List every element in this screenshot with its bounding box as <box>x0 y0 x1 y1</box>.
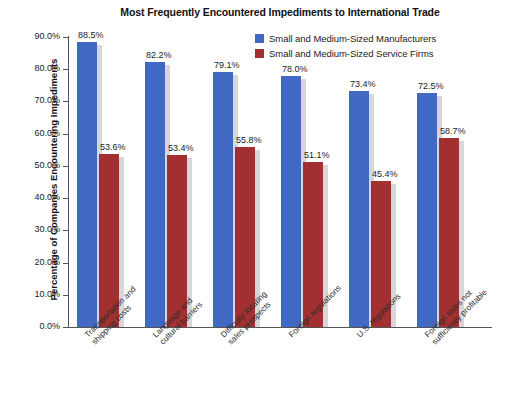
y-tick-mark <box>63 327 69 328</box>
bar-value-label: 78.0% <box>282 64 308 74</box>
bar-value-label: 55.8% <box>236 135 262 145</box>
bar-manufacturers <box>145 62 165 327</box>
bar-chart: Most Frequently Encountered Impediments … <box>0 0 507 413</box>
bar-manufacturers <box>77 42 97 327</box>
bar-manufacturers <box>417 93 437 327</box>
plot-area: 88.5%53.6%82.2%53.4%79.1%55.8%78.0%51.1%… <box>69 37 492 327</box>
bar-manufacturers <box>281 76 301 327</box>
y-tick-label: 60.0% <box>22 128 60 138</box>
bar-value-label: 53.4% <box>168 143 194 153</box>
y-tick-label: 70.0% <box>22 95 60 105</box>
bar-value-label: 73.4% <box>350 79 376 89</box>
y-tick-label: 10.0% <box>22 289 60 299</box>
y-tick-label: 0.0% <box>22 321 60 331</box>
bar-value-label: 82.2% <box>146 50 172 60</box>
bar-value-label: 53.6% <box>100 142 126 152</box>
y-tick-label: 20.0% <box>22 257 60 267</box>
bar-value-label: 88.5% <box>78 30 104 40</box>
y-tick-label: 40.0% <box>22 192 60 202</box>
y-axis-title: Percentage of Companies Encountering Imp… <box>48 40 59 320</box>
bar-manufacturers <box>213 72 233 327</box>
bar-value-label: 79.1% <box>214 60 240 70</box>
bar-value-label: 51.1% <box>304 150 330 160</box>
bar-value-label: 72.5% <box>418 81 444 91</box>
bar-value-label: 45.4% <box>372 169 398 179</box>
y-tick-label: 30.0% <box>22 224 60 234</box>
y-tick-label: 80.0% <box>22 63 60 73</box>
bar-value-label: 58.7% <box>440 126 466 136</box>
bar-manufacturers <box>349 91 369 328</box>
y-tick-label: 90.0% <box>22 31 60 41</box>
chart-title: Most Frequently Encountered Impediments … <box>60 6 500 18</box>
y-tick-label: 50.0% <box>22 160 60 170</box>
